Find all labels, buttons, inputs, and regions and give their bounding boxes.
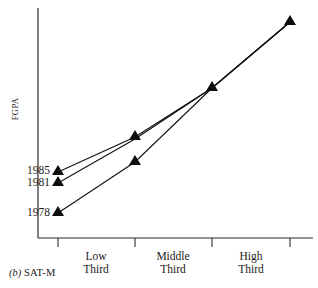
figure-caption: (b) SAT-M: [9, 267, 55, 278]
x-label-high-third: High Third: [212, 250, 290, 276]
x-label-high-third-line2: Third: [212, 263, 290, 276]
x-label-middle-third-line1: Middle: [134, 250, 212, 263]
series-label-1985: 1985: [8, 164, 50, 176]
series-1985: [52, 22, 290, 175]
series-1981: [52, 22, 290, 186]
marker-middle-third: [206, 81, 218, 91]
y-axis-label: FGPA: [10, 81, 20, 137]
x-label-low-third-line2: Third: [57, 263, 135, 276]
figure-sat-m-fgpa: FGPA 1985 1981 1978 Low Third Middle Thi…: [0, 0, 318, 288]
marker-1978-lowmid: [129, 155, 141, 165]
marker-middle-cluster: [129, 130, 141, 140]
caption-letter: (b): [9, 267, 21, 278]
x-label-high-third-line1: High: [212, 250, 290, 263]
x-label-low-third: Low Third: [57, 250, 135, 276]
series-line-1981: [58, 22, 290, 183]
series-label-1981: 1981: [8, 176, 50, 188]
series-line-1985: [58, 22, 290, 172]
marker-high-third: [284, 15, 296, 25]
x-axis-ticks: [58, 238, 290, 247]
x-label-middle-third: Middle Third: [134, 250, 212, 276]
series-label-1978: 1978: [8, 206, 50, 218]
x-label-low-third-line1: Low: [57, 250, 135, 263]
marker-1978-low: [52, 206, 64, 216]
x-label-middle-third-line2: Third: [134, 263, 212, 276]
series-line-1978: [58, 22, 290, 213]
shared-markers: [129, 15, 296, 140]
chart-canvas: [0, 0, 318, 288]
caption-text: SAT-M: [24, 267, 56, 278]
series-1978: [52, 22, 290, 216]
